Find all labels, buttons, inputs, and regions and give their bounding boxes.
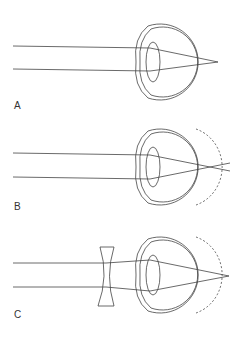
refracted-ray-top [150, 155, 230, 171]
refracted-ray-bottom [150, 276, 229, 291]
incident-ray-top [13, 46, 150, 48]
panel-label-b: B [14, 201, 21, 212]
crystalline-lens [146, 147, 160, 187]
incident-ray-bottom [13, 69, 150, 71]
panel-b [13, 129, 230, 205]
crystalline-lens [146, 42, 160, 82]
panel-a [13, 24, 218, 100]
refracted-ray-bottom [150, 163, 230, 179]
elongated-eye-outline-dashed [196, 237, 222, 313]
panel-label-a: A [14, 100, 21, 111]
concave-lens [98, 247, 114, 306]
incident-ray-bottom [13, 177, 150, 179]
diverged-ray-bottom [106, 287, 150, 291]
incident-ray-top [13, 153, 150, 155]
diverged-ray-top [106, 260, 150, 263]
refracted-ray-top [150, 260, 229, 276]
eye-diagram: A B C [0, 0, 241, 337]
panel-label-c: C [14, 309, 21, 320]
panel-c [13, 237, 229, 313]
